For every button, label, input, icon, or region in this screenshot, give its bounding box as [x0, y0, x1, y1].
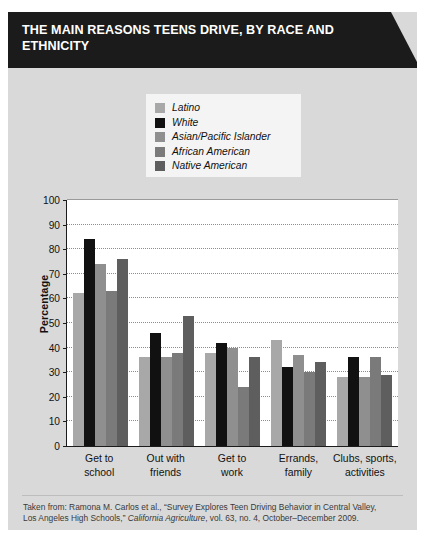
- citation-line-2-suffix: , vol. 63, no. 4, October–December 2009.: [205, 513, 359, 523]
- bar-group: [266, 200, 332, 446]
- bar: [84, 239, 95, 446]
- y-tick-label: 60: [49, 293, 60, 304]
- y-tick-label: 30: [49, 367, 60, 378]
- bar: [183, 316, 194, 446]
- y-tick-label: 50: [49, 318, 60, 329]
- x-tick-label-line: Get to: [67, 452, 131, 466]
- source-citation: Taken from: Ramona M. Carlos et al., “Su…: [23, 502, 408, 525]
- bar: [150, 333, 161, 446]
- x-tick-label-line: school: [67, 466, 131, 480]
- bar: [216, 343, 227, 446]
- x-tick-label-line: Out with: [133, 452, 197, 466]
- y-tick-label: 10: [49, 416, 60, 427]
- legend-item: African American: [155, 145, 301, 159]
- x-tick-label: Clubs, sports,activities: [332, 452, 398, 488]
- x-tick-label: Get toschool: [66, 452, 132, 488]
- bar: [249, 357, 260, 446]
- x-tick-label-line: friends: [133, 466, 197, 480]
- bar: [161, 357, 172, 446]
- legend-label: Native American: [172, 160, 247, 172]
- y-tick-label: 40: [49, 342, 60, 353]
- bar: [106, 291, 117, 446]
- bar: [293, 355, 304, 446]
- bar: [117, 259, 128, 446]
- x-tick-label-line: work: [200, 466, 264, 480]
- citation-journal: California Agriculture: [128, 513, 205, 523]
- chart-legend: LatinoWhiteAsian/Pacific IslanderAfrican…: [146, 94, 301, 177]
- legend-label: African American: [172, 146, 250, 158]
- plot-area: 0102030405060708090100: [66, 200, 398, 447]
- legend-item: Latino: [155, 101, 301, 115]
- legend-swatch-icon: [155, 161, 165, 171]
- y-tick-label: 100: [43, 195, 60, 206]
- bar: [348, 357, 359, 446]
- bar: [238, 387, 249, 446]
- x-tick-label-line: Errands,: [266, 452, 330, 466]
- y-tick-label: 80: [49, 244, 60, 255]
- y-tick-label: 90: [49, 219, 60, 230]
- x-tick-label-line: family: [266, 466, 330, 480]
- bar: [205, 353, 216, 446]
- legend-swatch-icon: [155, 118, 165, 128]
- bar: [315, 362, 326, 446]
- bar: [227, 348, 238, 446]
- legend-item: Native American: [155, 159, 301, 173]
- footer-divider: [22, 495, 403, 496]
- citation-line-2-prefix: Los Angeles High Schools,”: [23, 513, 128, 523]
- bar: [271, 340, 282, 446]
- citation-line-2: Los Angeles High Schools,” California Ag…: [23, 513, 408, 524]
- bar: [359, 377, 370, 446]
- header-banner: THE MAIN REASONS TEENS DRIVE, BY RACE AN…: [8, 12, 417, 68]
- x-tick-label-line: activities: [333, 466, 397, 480]
- legend-item: White: [155, 116, 301, 130]
- legend-swatch-icon: [155, 103, 165, 113]
- y-tick-mark: [63, 446, 67, 447]
- legend-label: Latino: [172, 102, 200, 114]
- x-tick-label: Errands,family: [265, 452, 331, 488]
- bar: [73, 293, 84, 446]
- legend-label: White: [172, 117, 198, 129]
- x-tick-label: Get towork: [199, 452, 265, 488]
- x-tick-label-line: Get to: [200, 452, 264, 466]
- x-axis-labels: Get toschoolOut withfriendsGet toworkErr…: [66, 452, 398, 488]
- page-title: THE MAIN REASONS TEENS DRIVE, BY RACE AN…: [22, 22, 372, 54]
- bar-group: [199, 200, 265, 446]
- bar: [282, 367, 293, 446]
- bar: [370, 357, 381, 446]
- y-tick-label: 70: [49, 268, 60, 279]
- bar-group: [67, 200, 133, 446]
- bar: [381, 375, 392, 446]
- bar: [172, 353, 183, 446]
- bar-group: [332, 200, 398, 446]
- bar: [139, 357, 150, 446]
- legend-swatch-icon: [155, 147, 165, 157]
- legend-item: Asian/Pacific Islander: [155, 130, 301, 144]
- bar: [304, 372, 315, 446]
- x-tick-label: Out withfriends: [132, 452, 198, 488]
- bar: [95, 264, 106, 446]
- y-tick-label: 0: [54, 441, 60, 452]
- x-tick-label-line: Clubs, sports,: [333, 452, 397, 466]
- bar: [337, 377, 348, 446]
- bar-groups: [67, 200, 398, 446]
- chart-figure: THE MAIN REASONS TEENS DRIVE, BY RACE AN…: [0, 0, 425, 540]
- legend-swatch-icon: [155, 132, 165, 142]
- citation-line-1: Taken from: Ramona M. Carlos et al., “Su…: [23, 502, 408, 513]
- legend-label: Asian/Pacific Islander: [172, 131, 270, 143]
- chart-card: THE MAIN REASONS TEENS DRIVE, BY RACE AN…: [8, 12, 417, 530]
- bar-group: [133, 200, 199, 446]
- y-tick-label: 20: [49, 391, 60, 402]
